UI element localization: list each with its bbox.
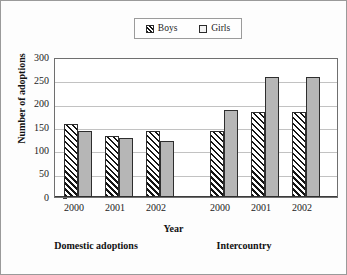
bar-intercountry-2002-girls [306,77,320,197]
bar-domestic-adoptions-2000-girls [78,131,92,197]
bar-domestic-adoptions-2000-boys [64,124,78,197]
x-tick-label-intercountry-2001: 2001 [241,203,281,213]
group-label-domestic-adoptions: Domestic adoptions [21,240,171,251]
bar-domestic-adoptions-2002-girls [160,141,174,197]
y-tick-mark-0 [63,198,67,199]
x-tick-label-domestic-2001: 2001 [95,203,135,213]
bar-domestic-adoptions-2001-girls [119,138,133,197]
legend-entry-girls: Girls [199,24,230,34]
bar-intercountry-2001-boys [251,112,265,197]
gridline-200 [55,106,337,107]
x-tick-label-intercountry-2000: 2000 [200,203,240,213]
y-tick-label-150: 150 [19,123,49,133]
y-tick-label-200: 200 [19,99,49,109]
bar-chart-figure: Boys Girls Number of adoptions 300 250 2… [0,0,347,275]
y-tick-label-250: 250 [19,76,49,86]
legend-entry-boys: Boys [146,24,178,34]
x-tick-label-domestic-2002: 2002 [136,203,176,213]
bar-domestic-adoptions-2002-boys [146,131,160,197]
bar-intercountry-2001-girls [265,77,279,197]
y-tick-label-0: 0 [19,193,49,203]
chart-legend: Boys Girls [134,18,242,39]
bar-intercountry-2002-boys [292,112,306,197]
y-tick-label-50: 50 [19,169,49,179]
gridline-250 [55,82,337,83]
y-tick-label-100: 100 [19,146,49,156]
legend-swatch-boys-icon [146,25,154,33]
plot-area [54,58,338,198]
legend-label-girls: Girls [211,24,230,34]
bar-domestic-adoptions-2001-boys [105,136,119,197]
x-axis-title: Year [1,223,346,234]
y-tick-label-300: 300 [19,53,49,63]
legend-label-boys: Boys [158,24,178,34]
bar-intercountry-2000-boys [210,131,224,197]
x-tick-label-domestic-2000: 2000 [54,203,94,213]
x-tick-label-intercountry-2002: 2002 [282,203,322,213]
legend-swatch-girls-icon [199,25,207,33]
group-label-intercountry: Intercountry [169,240,319,251]
bar-intercountry-2000-girls [224,110,238,197]
